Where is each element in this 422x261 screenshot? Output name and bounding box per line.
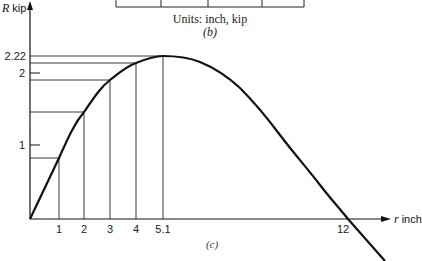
part-b-label: (b) <box>203 25 217 39</box>
y-axis-label: Rkip <box>1 1 26 15</box>
horizontal-reference-lines <box>30 56 163 158</box>
chart-figure: Units: inch, kip (b) Rkip rinch 1 2 2.22… <box>0 0 422 261</box>
y-ticks <box>30 73 40 145</box>
x-axis-arrow-icon <box>381 216 391 222</box>
y-tick-label: 1 <box>19 139 25 151</box>
x-tick-label: 2 <box>81 223 87 235</box>
x-axis-label: rinch <box>394 212 422 226</box>
x-tick-label: 3 <box>107 223 113 235</box>
x-tick-label: 12 <box>337 223 349 235</box>
table-fragment <box>116 0 304 7</box>
figure-label: (c) <box>206 238 219 251</box>
y-tick-label: 2 <box>19 67 25 79</box>
y-tick-label: 2.22 <box>5 50 26 62</box>
x-tick-label: 1 <box>56 223 62 235</box>
x-tick-label: 5.1 <box>155 223 170 235</box>
units-caption: Units: inch, kip <box>173 12 247 26</box>
y-axis-arrow-icon <box>27 1 33 10</box>
x-tick-label: 4 <box>133 223 139 235</box>
